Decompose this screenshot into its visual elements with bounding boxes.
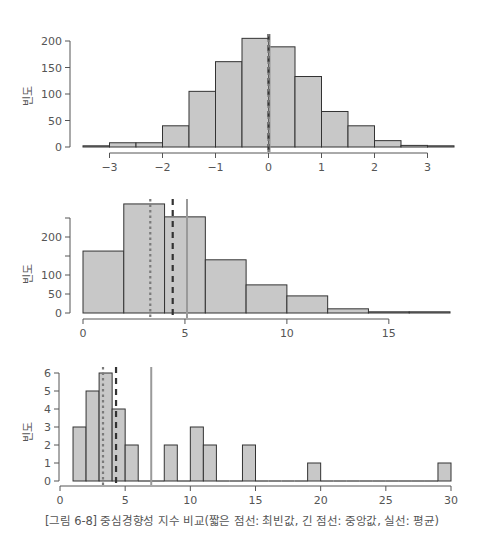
y-axis-label: 빈도 <box>22 422 35 442</box>
histogram-bar <box>438 463 451 481</box>
y-tick-label: 0 <box>55 307 62 320</box>
histogram-bar <box>428 146 455 147</box>
histogram-bar <box>163 126 190 147</box>
y-axis-label: 빈도 <box>22 86 35 106</box>
x-tick-label: 15 <box>382 327 396 340</box>
y-tick-label: 50 <box>48 288 62 301</box>
histogram-bar <box>246 285 287 313</box>
histogram-bar <box>190 427 203 481</box>
y-tick-label: 100 <box>41 269 62 282</box>
x-tick-label: 0 <box>57 494 64 507</box>
y-tick-label: 200 <box>41 231 62 244</box>
x-tick-label: 2 <box>371 161 378 174</box>
y-tick-label: 0 <box>55 141 62 154</box>
x-tick-label: 15 <box>249 494 263 507</box>
histogram-bar <box>308 463 321 481</box>
histogram-bar <box>205 260 246 313</box>
histogram-bar <box>242 445 255 481</box>
x-tick-label: 5 <box>181 327 188 340</box>
histogram-bar <box>83 251 124 313</box>
x-tick-label: −3 <box>101 161 117 174</box>
histogram-bar <box>125 445 138 481</box>
histogram-bar <box>368 312 409 313</box>
histogram-bar <box>242 38 269 147</box>
x-tick-label: −1 <box>207 161 223 174</box>
y-tick-label: 5 <box>44 385 51 398</box>
x-tick-label: 30 <box>444 494 458 507</box>
histogram-bar <box>375 141 402 147</box>
y-axis-label: 빈도 <box>22 264 35 284</box>
y-tick-label: 2 <box>44 439 51 452</box>
x-tick-label: 0 <box>80 327 87 340</box>
histogram-bar <box>73 427 86 481</box>
histogram-bar <box>165 217 206 313</box>
x-tick-label: 25 <box>379 494 393 507</box>
histogram-bar <box>124 204 165 313</box>
histogram-bar <box>112 409 125 481</box>
histogram-bar <box>86 391 99 481</box>
histogram-bar <box>269 47 296 147</box>
histogram-bar <box>328 309 369 313</box>
histogram-bar <box>216 62 243 147</box>
x-tick-label: 1 <box>318 161 325 174</box>
histogram-bar <box>287 296 328 313</box>
y-tick-label: 4 <box>44 403 51 416</box>
histogram-bar <box>99 373 112 481</box>
histogram-bar <box>203 445 216 481</box>
histogram-small-sample: 0123456빈도051015202530 <box>22 367 458 507</box>
central-tendency-figure: 050100150200빈도−3−2−10123 050100200빈도0510… <box>0 0 481 555</box>
histogram-bar <box>401 145 428 147</box>
histogram-normal: 050100150200빈도−3−2−10123 <box>22 34 454 174</box>
x-tick-label: 10 <box>280 327 294 340</box>
histogram-bar <box>164 445 177 481</box>
y-tick-label: 200 <box>41 35 62 48</box>
histogram-bar <box>409 312 450 313</box>
y-tick-label: 150 <box>41 62 62 75</box>
y-tick-label: 100 <box>41 88 62 101</box>
x-tick-label: 10 <box>183 494 197 507</box>
histogram-bar <box>322 111 349 147</box>
x-tick-label: 20 <box>314 494 328 507</box>
y-tick-label: 50 <box>48 115 62 128</box>
histogram-right-skewed: 050100200빈도051015 <box>22 199 450 340</box>
y-tick-label: 6 <box>44 367 51 380</box>
y-tick-label: 0 <box>44 475 51 488</box>
x-tick-label: 5 <box>122 494 129 507</box>
histogram-bar <box>83 146 110 147</box>
figure-caption: [그림 6-8] 중심경향성 지수 비교(짧은 점선: 최빈값, 긴 점선: 중… <box>45 512 439 528</box>
x-tick-label: 3 <box>424 161 431 174</box>
y-tick-label: 1 <box>44 457 51 470</box>
histogram-bar <box>110 143 137 147</box>
histogram-bar <box>189 91 216 147</box>
y-tick-label: 3 <box>44 421 51 434</box>
histogram-bar <box>136 143 163 147</box>
histogram-bar <box>348 126 375 147</box>
x-tick-label: 0 <box>265 161 272 174</box>
histogram-bar <box>295 77 322 147</box>
x-tick-label: −2 <box>154 161 170 174</box>
